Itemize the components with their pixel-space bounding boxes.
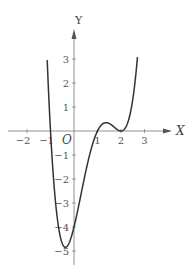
x-tick-label: 2: [118, 135, 124, 146]
y-tick-label: 1: [63, 102, 69, 113]
y-tick-label: −4: [54, 222, 69, 233]
y-axis-label: Y: [74, 14, 83, 27]
y-axis-arrow-icon: [72, 29, 77, 39]
y-tick-label: −5: [54, 246, 69, 257]
ticks: −2−1123321−1−2−3−4−5: [16, 54, 148, 257]
y-tick-label: −1: [54, 150, 69, 161]
x-tick-label: 3: [141, 135, 147, 146]
x-tick-label: −2: [16, 135, 31, 146]
x-axis-label: X: [175, 124, 185, 138]
y-tick-label: −2: [54, 174, 69, 185]
x-axis-arrow-icon: [163, 129, 172, 134]
y-tick-label: 2: [63, 78, 69, 89]
y-tick-label: 3: [63, 54, 69, 65]
function-graph: −2−1123321−1−2−3−4−5 X Y O: [0, 0, 191, 278]
origin-label: O: [62, 133, 72, 147]
axes: [8, 29, 172, 265]
